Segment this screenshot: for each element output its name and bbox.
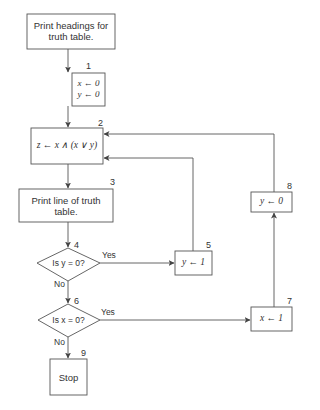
node-8-text: y ← 0 — [251, 196, 292, 207]
node-8-number: 8 — [287, 181, 292, 191]
node-2-number: 2 — [98, 118, 103, 128]
node-1-number: 1 — [86, 61, 91, 71]
node-6-text: Is x = 0? — [40, 315, 97, 326]
node-6-number: 6 — [74, 296, 79, 306]
edge-6-yes-label: Yes — [101, 307, 115, 317]
node-4-text: Is y = 0? — [40, 258, 97, 269]
node-1-line-x: x ← 0 — [72, 78, 105, 89]
node-5-text: y ← 1 — [175, 257, 212, 268]
node-3-text: Print line of truth table. — [25, 195, 107, 217]
node-7-text: x ← 1 — [251, 313, 292, 324]
edge-6-no-label: No — [54, 337, 65, 347]
node-3-number: 3 — [110, 177, 115, 187]
node-9-number: 9 — [81, 348, 86, 358]
node-9-text: Stop — [50, 372, 87, 383]
node-print-headings-text: Print headings for truth table. — [27, 20, 115, 42]
edge-4-no-label: No — [54, 279, 65, 289]
node-4-number: 4 — [74, 240, 79, 250]
edge-4-yes-label: Yes — [102, 250, 116, 260]
node-7-number: 7 — [287, 296, 292, 306]
node-5-number: 5 — [206, 240, 211, 250]
node-1-line-y: y ← 0 — [72, 89, 105, 100]
node-2-text: z ← x ∧ (x ∨ y) — [31, 140, 103, 151]
